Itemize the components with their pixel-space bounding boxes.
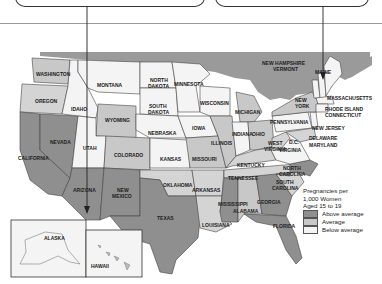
label-maryland: MARYLAND bbox=[309, 142, 338, 148]
label-hawaii: HAWAII bbox=[91, 263, 109, 269]
label-colorado: COLORADO bbox=[114, 152, 143, 158]
label-oregon: OREGON bbox=[35, 98, 58, 104]
label-north-carolina-2: CAROLINA bbox=[279, 171, 306, 177]
label-wisconsin: WISCONSIN bbox=[200, 100, 229, 106]
label-montana: MONTANA bbox=[97, 82, 123, 88]
label-alabama: ALABAMA bbox=[233, 208, 259, 214]
label-florida: FLORIDA bbox=[273, 223, 296, 229]
us-teen-pregnancy-map: WASHINGTON OREGON CALIFORNIA NEVADA IDAH… bbox=[0, 0, 382, 284]
label-maine: MAINE bbox=[315, 69, 332, 75]
label-arizona: ARIZONA bbox=[73, 187, 96, 193]
legend-row-above: Above average bbox=[303, 210, 364, 218]
map-legend: Pregnancies per 1,000 Women Aged 15 to 1… bbox=[303, 187, 364, 234]
legend-row-average: Average bbox=[303, 218, 364, 226]
label-ohio: OHIO bbox=[252, 131, 265, 137]
label-michigan: MICHIGAN bbox=[235, 109, 261, 115]
label-idaho: IDAHO bbox=[71, 106, 87, 112]
label-south-dakota-2: DAKOTA bbox=[148, 109, 169, 115]
label-new-york-2: YORK bbox=[295, 103, 310, 109]
swatch-above-average bbox=[303, 210, 318, 218]
label-vermont: VERMONT bbox=[273, 66, 298, 72]
label-rhode-island: RHODE ISLAND bbox=[325, 106, 363, 112]
label-south-carolina-2: CAROLINA bbox=[272, 185, 299, 191]
label-louisiana: LOUISIANA bbox=[202, 222, 230, 228]
hawaii-inset bbox=[86, 230, 142, 277]
label-pennsylvania: PENNSYLVANIA bbox=[270, 119, 309, 125]
state-michigan[interactable] bbox=[236, 92, 262, 122]
label-minnesota: MINNESOTA bbox=[174, 81, 204, 87]
legend-title-line1: Pregnancies per bbox=[303, 187, 364, 195]
label-illinois: ILLINOIS bbox=[211, 140, 233, 146]
label-wyoming: WYOMING bbox=[105, 117, 130, 123]
label-north-dakota-2: DAKOTA bbox=[148, 83, 169, 89]
label-massachusetts: MASSACHUSETTS bbox=[327, 95, 373, 101]
label-nebraska: NEBRASKA bbox=[148, 130, 177, 136]
label-indiana: INDIANA bbox=[232, 131, 253, 137]
label-texas: TEXAS bbox=[157, 215, 174, 221]
legend-title-line3: Aged 15 to 19 bbox=[303, 202, 364, 210]
label-oklahoma: OKLAHOMA bbox=[163, 182, 193, 188]
legend-label-below: Below average bbox=[322, 226, 363, 234]
label-alaska: ALASKA bbox=[44, 235, 65, 241]
label-connecticut: CONNECTICUT bbox=[325, 112, 361, 118]
label-kansas: KANSAS bbox=[160, 156, 182, 162]
state-maine[interactable] bbox=[324, 56, 342, 96]
label-washington: WASHINGTON bbox=[36, 71, 71, 77]
label-missouri: MISSOURI bbox=[192, 156, 217, 162]
legend-label-above: Above average bbox=[322, 210, 364, 218]
legend-row-below: Below average bbox=[303, 226, 364, 234]
label-georgia: GEORGIA bbox=[257, 199, 281, 205]
label-west-virginia-2: VIRGINIA bbox=[264, 146, 287, 152]
label-california: CALIFORNIA bbox=[18, 155, 49, 161]
swatch-below-average bbox=[303, 226, 318, 234]
state-florida[interactable] bbox=[244, 214, 302, 264]
label-mississippi: MISSISSIPPI bbox=[218, 201, 248, 207]
label-delaware: DELAWARE bbox=[309, 135, 338, 141]
legend-label-average: Average bbox=[322, 218, 345, 226]
label-nevada: NEVADA bbox=[50, 139, 71, 145]
label-arkansas: ARKANSAS bbox=[192, 187, 221, 193]
swatch-average bbox=[303, 218, 318, 226]
state-kansas[interactable] bbox=[150, 138, 190, 168]
label-new-mexico-2: MEXICO bbox=[112, 193, 132, 199]
label-kentucky: KENTUCKY bbox=[237, 162, 265, 168]
label-new-jersey: NEW JERSEY bbox=[312, 125, 345, 131]
label-iowa: IOWA bbox=[192, 125, 206, 131]
label-dc: D.C. bbox=[289, 139, 300, 145]
label-tennessee: TENNESSEE bbox=[228, 175, 259, 181]
label-utah: UTAH bbox=[83, 145, 97, 151]
legend-title-line2: 1,000 Women bbox=[303, 195, 364, 203]
